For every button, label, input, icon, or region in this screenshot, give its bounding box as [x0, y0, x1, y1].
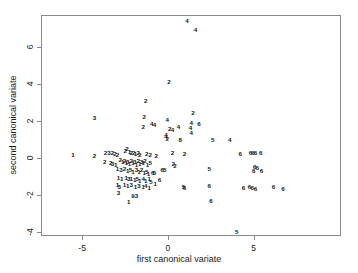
scatter-point: 6	[183, 185, 186, 191]
scatter-point: 2	[183, 151, 186, 157]
scatter-points-layer: 4422322446442442444428541223222221221222…	[42, 16, 342, 237]
scatter-point: 2	[166, 135, 169, 141]
scatter-point: 2	[171, 150, 174, 156]
scatter-point: 2	[142, 114, 145, 120]
scatter-point: 2	[154, 153, 157, 159]
scatter-point: 3	[135, 193, 138, 199]
scatter-point: 5	[163, 167, 166, 173]
scatter-point: 1	[154, 181, 157, 187]
scatter-point: 2	[173, 163, 176, 169]
y-axis-tick	[37, 232, 41, 233]
y-axis-tick-label: 2	[25, 118, 35, 123]
scatter-point: 6	[209, 198, 212, 204]
x-axis-tick-label: 0	[165, 243, 170, 253]
scatter-point: 2	[142, 123, 145, 129]
scatter-point: 2	[167, 79, 170, 85]
scatter-point: 6	[208, 183, 211, 189]
scatter-point: 4	[177, 124, 180, 130]
scatter-point: 5	[208, 166, 211, 172]
y-axis-tick	[37, 195, 41, 196]
scatter-point: 8	[178, 136, 181, 142]
scatter-point: 6	[272, 184, 275, 190]
canonical-variate-scatter-figure: 4422322446442442444428541223222221221222…	[0, 0, 358, 273]
scatter-point: 2	[103, 159, 106, 165]
scatter-point: 6	[238, 151, 241, 157]
y-axis-tick	[37, 47, 41, 48]
y-axis-tick-label: 4	[25, 81, 35, 86]
scatter-point: 4	[153, 122, 156, 128]
scatter-point: 3	[137, 183, 140, 189]
x-axis-tick	[168, 236, 169, 240]
scatter-point: 6	[260, 168, 263, 174]
scatter-point: 6	[197, 121, 200, 127]
x-axis-title: first canonical variate	[0, 254, 358, 264]
scatter-point: 2	[93, 153, 96, 159]
scatter-point: 5	[211, 136, 214, 142]
scatter-point: 4	[166, 117, 169, 123]
scatter-point: 5	[148, 160, 151, 166]
scatter-point: 6	[254, 186, 257, 192]
scatter-point: 1	[148, 185, 151, 191]
scatter-point: 2	[144, 97, 147, 103]
y-axis-tick-label: 0	[25, 156, 35, 161]
scatter-point: 2	[148, 152, 151, 158]
scatter-point: 4	[185, 18, 188, 24]
scatter-point: 1	[71, 152, 74, 158]
y-axis-tick-label: -2	[25, 191, 35, 199]
scatter-point: 3	[93, 115, 96, 121]
scatter-point: 4	[228, 137, 231, 143]
y-axis-tick-label: -4	[25, 229, 35, 237]
y-axis-tick-label: 6	[25, 44, 35, 49]
scatter-point: 6	[242, 185, 245, 191]
scatter-point: 5	[153, 170, 156, 176]
scatter-point: 5	[235, 229, 238, 235]
x-axis-tick	[82, 236, 83, 240]
scatter-point: 6	[256, 165, 259, 171]
y-axis-tick	[37, 158, 41, 159]
scatter-point: 4	[194, 27, 197, 33]
scatter-point: 3	[130, 182, 133, 188]
x-axis-tick-label: -5	[78, 243, 86, 253]
scatter-point: 3	[117, 190, 120, 196]
scatter-point: 2	[191, 109, 194, 115]
scatter-point: 6	[252, 168, 255, 174]
scatter-point: 6	[259, 150, 262, 156]
y-axis-tick	[37, 121, 41, 122]
scatter-point: 4	[190, 130, 193, 136]
scatter-point: 1	[127, 199, 130, 205]
scatter-point: 6	[281, 186, 284, 192]
scatter-point: 6	[254, 150, 257, 156]
y-axis-title: second canonical variate	[8, 75, 18, 174]
y-axis-tick	[37, 84, 41, 85]
x-axis-tick-label: 5	[251, 243, 256, 253]
x-axis-tick	[254, 236, 255, 240]
scatter-point: 4	[171, 127, 174, 133]
plot-frame: 4422322446442442444428541223222221221222…	[41, 15, 341, 236]
scatter-point: 6	[158, 177, 161, 183]
